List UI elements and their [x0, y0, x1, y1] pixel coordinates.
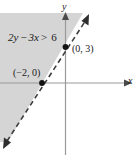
- inequality-minus-sign: −: [20, 31, 26, 43]
- point-marker-y-intercept: [63, 44, 69, 50]
- inequality-annotation: 2y−3x>6: [8, 32, 59, 43]
- x-axis-label: x: [128, 76, 132, 86]
- y-axis-label: y: [62, 2, 66, 12]
- linear-inequality-figure: 2y−3x>6 (0, 3) (−2, 0) y x: [0, 0, 139, 155]
- inequality-rhs: 6: [51, 31, 57, 43]
- inequality-relation-sign: >: [41, 31, 47, 43]
- inequality-lhs-second: 3x: [29, 31, 39, 43]
- point-marker-x-intercept: [39, 80, 45, 86]
- point-label-x-intercept: (−2, 0): [13, 68, 40, 78]
- inequality-lhs-first: 2y: [8, 31, 18, 43]
- point-label-y-intercept: (0, 3): [72, 44, 94, 54]
